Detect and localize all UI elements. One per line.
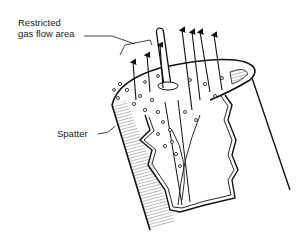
nozzle-diagram	[0, 0, 301, 233]
nozzle-body	[112, 59, 290, 232]
